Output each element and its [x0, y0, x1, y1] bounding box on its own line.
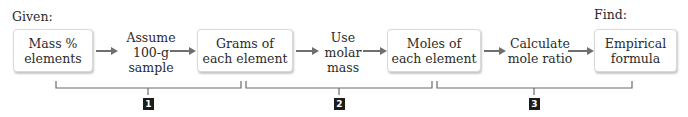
- bracket-step-2: [246, 81, 432, 95]
- step-badge-1: 1: [143, 98, 154, 110]
- step-badge-2: 2: [334, 98, 345, 110]
- bracket-step-3: [437, 81, 632, 95]
- step-badge-3: 3: [529, 98, 540, 110]
- bracket-step-1: [56, 81, 241, 95]
